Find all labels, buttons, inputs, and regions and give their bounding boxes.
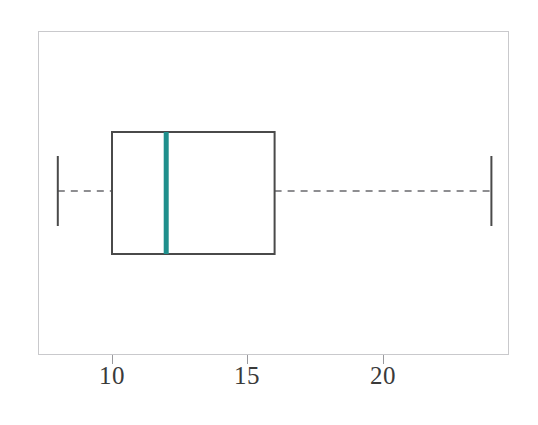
x-tick-label-10: 10: [99, 362, 125, 390]
plot-canvas: [0, 0, 538, 425]
boxplot-figure: 10 15 20: [0, 0, 538, 425]
x-tick-label-20: 20: [370, 362, 396, 390]
iqr-box: [112, 132, 275, 254]
x-tick-label-15: 15: [234, 362, 260, 390]
